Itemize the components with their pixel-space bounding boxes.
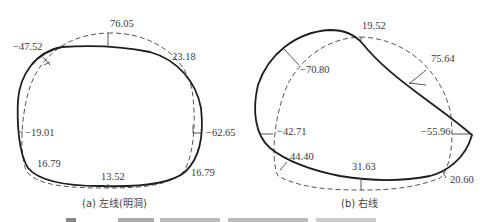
label-b-bottom-left: 44.40 [290,151,314,162]
label-a-bottom-left: 16.79 [37,158,61,169]
label-a-bottom: 13.52 [101,171,125,182]
panel-b: 19.52 −70.80 75.64 −42.71 −55.96 44.40 3… [255,20,474,209]
tick-b-top-left [284,49,299,65]
label-b-left: −42.71 [277,126,307,137]
tick-b-top-right [409,83,426,85]
panel-a-caption: (a) 左线(明洞) [82,197,147,209]
label-a-top: 76.05 [110,18,134,29]
label-a-top-left: −47.52 [13,41,43,52]
label-b-bottom: 31.63 [352,161,376,172]
label-b-right: −55.96 [421,126,451,137]
figure-canvas: 76.05 −47.52 23.18 −19.01 −62.65 16.79 1… [0,0,484,222]
label-a-bottom-right: 16.79 [191,167,215,178]
panel-b-caption: (b) 右线 [341,197,378,209]
panel-a: 76.05 −47.52 23.18 −19.01 −62.65 16.79 1… [13,18,236,209]
label-b-bottom-right: 20.60 [450,174,474,185]
label-a-top-right: 23.18 [172,51,196,62]
tick-b-bottom-left [280,162,287,170]
figure-caption-truncated [66,218,376,222]
label-b-top: 19.52 [362,20,386,31]
label-b-top-right: 75.64 [431,53,455,64]
label-a-right: −62.65 [206,127,236,138]
tick-b-top-right-line [409,70,426,84]
label-a-left: −19.01 [25,127,55,138]
label-b-top-left: −70.80 [300,64,330,75]
